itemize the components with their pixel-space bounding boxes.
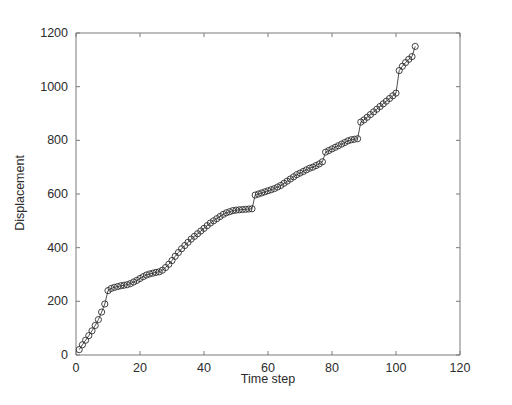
y-tick-label: 200 (47, 294, 68, 308)
y-tick-label: 800 (47, 133, 68, 147)
x-tick-label: 40 (197, 361, 211, 375)
y-tick-label: 0 (61, 348, 68, 362)
y-tick-label: 600 (47, 187, 68, 201)
x-axis-title: Time step (241, 372, 295, 386)
series-line (79, 46, 415, 349)
x-tick-label: 100 (386, 361, 407, 375)
x-tick-label: 20 (133, 361, 147, 375)
x-tick-label: 80 (325, 361, 339, 375)
y-tick-label: 1000 (40, 80, 68, 94)
series-markers (76, 43, 418, 352)
y-axis-tick-labels: 020040060080010001200 (40, 26, 68, 362)
y-axis-title: Displacement (13, 155, 27, 231)
chart-canvas: 020406080100120 020040060080010001200 Ti… (0, 0, 512, 405)
y-tick-label: 400 (47, 241, 68, 255)
chart-figure: 020406080100120 020040060080010001200 Ti… (0, 0, 512, 405)
data-series-displacement (76, 43, 418, 352)
x-tick-label: 120 (450, 361, 471, 375)
x-tick-label: 0 (73, 361, 80, 375)
y-tick-label: 1200 (40, 26, 68, 40)
